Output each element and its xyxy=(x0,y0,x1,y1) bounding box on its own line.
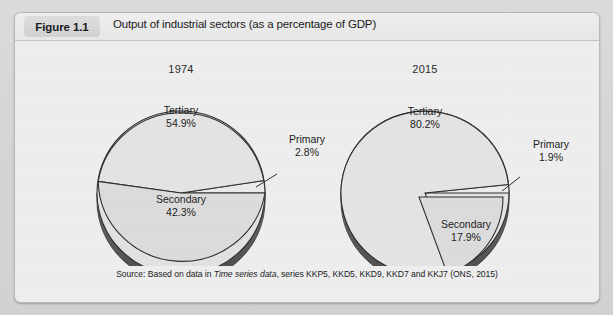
figure-container: Figure 1.1 Output of industrial sectors … xyxy=(14,12,600,303)
figure-caption: Output of industrial sectors (as a perce… xyxy=(113,18,376,30)
figure-body: 1974 xyxy=(15,41,599,302)
figure-source-note: Source: Based on data in Time series dat… xyxy=(15,269,599,279)
pie-2015-label-primary: Primary 1.9% xyxy=(511,138,591,164)
pie-1974-primary-name: Primary xyxy=(289,133,325,145)
pie-1974-label-secondary: Secondary 42.3% xyxy=(121,193,241,219)
pie-1974-secondary-value: 42.3% xyxy=(121,206,241,219)
charts-area: 1974 xyxy=(15,41,599,266)
pie-2015-secondary-name: Secondary xyxy=(441,218,491,230)
source-prefix: Source: Based on data in xyxy=(116,269,214,279)
source-italic-title: Time series data xyxy=(214,269,277,279)
pie-2015-secondary-value: 17.9% xyxy=(411,231,521,244)
pie-1974-tertiary-name: Tertiary xyxy=(164,104,198,116)
pie-1974-label-primary: Primary 2.8% xyxy=(267,133,347,159)
pie-2015-label-secondary: Secondary 17.9% xyxy=(411,218,521,244)
pie-2015-primary-name: Primary xyxy=(533,138,569,150)
pie-2015-tertiary-value: 80.2% xyxy=(370,118,480,131)
chart-2015-year-label: 2015 xyxy=(385,63,465,75)
source-suffix: , series KKP5, KKD5, KKD9, KKD7 and KKJ7… xyxy=(276,269,497,279)
figure-number-badge: Figure 1.1 xyxy=(24,16,100,37)
pie-1974-tertiary-value: 54.9% xyxy=(126,117,236,130)
pie-1974 xyxy=(97,111,277,266)
pie-1974-label-tertiary: Tertiary 54.9% xyxy=(126,104,236,130)
pie-2015-primary-value: 1.9% xyxy=(511,151,591,164)
figure-header: Figure 1.1 Output of industrial sectors … xyxy=(15,13,599,41)
pie-1974-secondary-name: Secondary xyxy=(156,193,206,205)
pie-2015-label-tertiary: Tertiary 80.2% xyxy=(370,105,480,131)
pie-2015-tertiary-name: Tertiary xyxy=(408,105,442,117)
pie-1974-primary-value: 2.8% xyxy=(267,146,347,159)
